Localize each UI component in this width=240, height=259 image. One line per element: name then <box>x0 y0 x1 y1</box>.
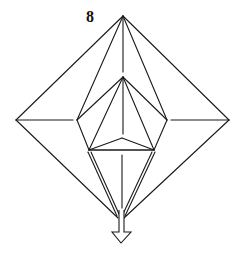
lower-flap <box>88 152 155 216</box>
apex-creases <box>77 16 167 120</box>
origami-fold-diagram <box>0 0 240 259</box>
